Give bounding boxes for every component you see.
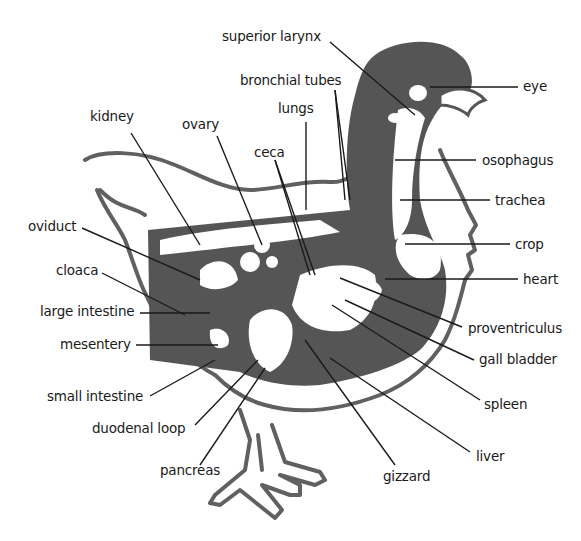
label-spleen: spleen xyxy=(484,396,527,412)
label-duodenal-loop: duodenal loop xyxy=(92,420,185,436)
label-pancreas: pancreas xyxy=(160,462,220,478)
label-osophagus: osophagus xyxy=(482,152,553,168)
label-proventriculus: proventriculus xyxy=(468,320,562,336)
label-lungs: lungs xyxy=(278,100,313,116)
label-kidney: kidney xyxy=(90,108,134,124)
label-superior-larynx: superior larynx xyxy=(222,28,321,44)
label-eye: eye xyxy=(523,78,547,94)
beak xyxy=(440,89,485,115)
label-large-intestine: large intestine xyxy=(40,303,134,319)
label-gizzard: gizzard xyxy=(383,468,430,484)
label-bronchial-tubes: bronchial tubes xyxy=(240,72,341,88)
chicken-anatomy-diagram: superior larynx bronchial tubes lungs ki… xyxy=(0,0,581,541)
label-cloaca: cloaca xyxy=(56,262,98,278)
label-small-intestine: small intestine xyxy=(47,388,143,404)
label-liver: liver xyxy=(476,448,504,464)
label-ovary: ovary xyxy=(182,116,219,132)
label-gall-bladder: gall bladder xyxy=(479,351,557,367)
label-mesentery: mesentery xyxy=(60,336,131,352)
label-crop: crop xyxy=(515,236,544,252)
label-heart: heart xyxy=(523,271,558,287)
label-trachea: trachea xyxy=(495,192,545,208)
label-ceca: ceca xyxy=(254,144,285,160)
label-oviduct: oviduct xyxy=(28,218,76,234)
